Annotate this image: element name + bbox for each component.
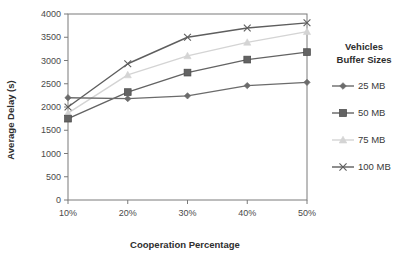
legend-label: 25 MB [358, 80, 385, 91]
data-point-square [65, 115, 72, 122]
legend-label: 50 MB [358, 107, 385, 118]
y-tick-label: 500 [46, 172, 61, 182]
y-tick-label: 0 [56, 195, 61, 205]
data-point-square [244, 56, 251, 63]
x-tick-label: 50% [298, 208, 316, 218]
y-tick-label: 1000 [41, 149, 61, 159]
line-chart: 05001000150020002500300035004000 10%20%3… [0, 0, 407, 262]
y-tick-label: 4000 [41, 9, 61, 19]
legend-label: 75 MB [358, 134, 385, 145]
data-point-square [304, 49, 311, 56]
y-tick-label: 1500 [41, 125, 61, 135]
data-point-square [184, 69, 191, 76]
data-point-square [124, 89, 131, 96]
y-tick-label: 2000 [41, 102, 61, 112]
legend-label: 100 MB [358, 161, 391, 172]
x-tick-label: 40% [238, 208, 256, 218]
y-tick-label: 3500 [41, 32, 61, 42]
data-point-square [339, 109, 346, 116]
chart-figure: 05001000150020002500300035004000 10%20%3… [0, 0, 407, 262]
x-tick-label: 20% [119, 208, 137, 218]
x-axis-title: Cooperation Percentage [130, 239, 240, 250]
legend-title-line2: Buffer Sizes [337, 54, 392, 65]
y-tick-label: 3000 [41, 56, 61, 66]
legend-title-line1: Vehicles [345, 41, 383, 52]
x-tick-label: 10% [59, 208, 77, 218]
chart-background [0, 0, 407, 262]
y-tick-label: 2500 [41, 79, 61, 89]
y-axis-title: Average Delay (s) [5, 80, 16, 159]
x-tick-label: 30% [178, 208, 196, 218]
